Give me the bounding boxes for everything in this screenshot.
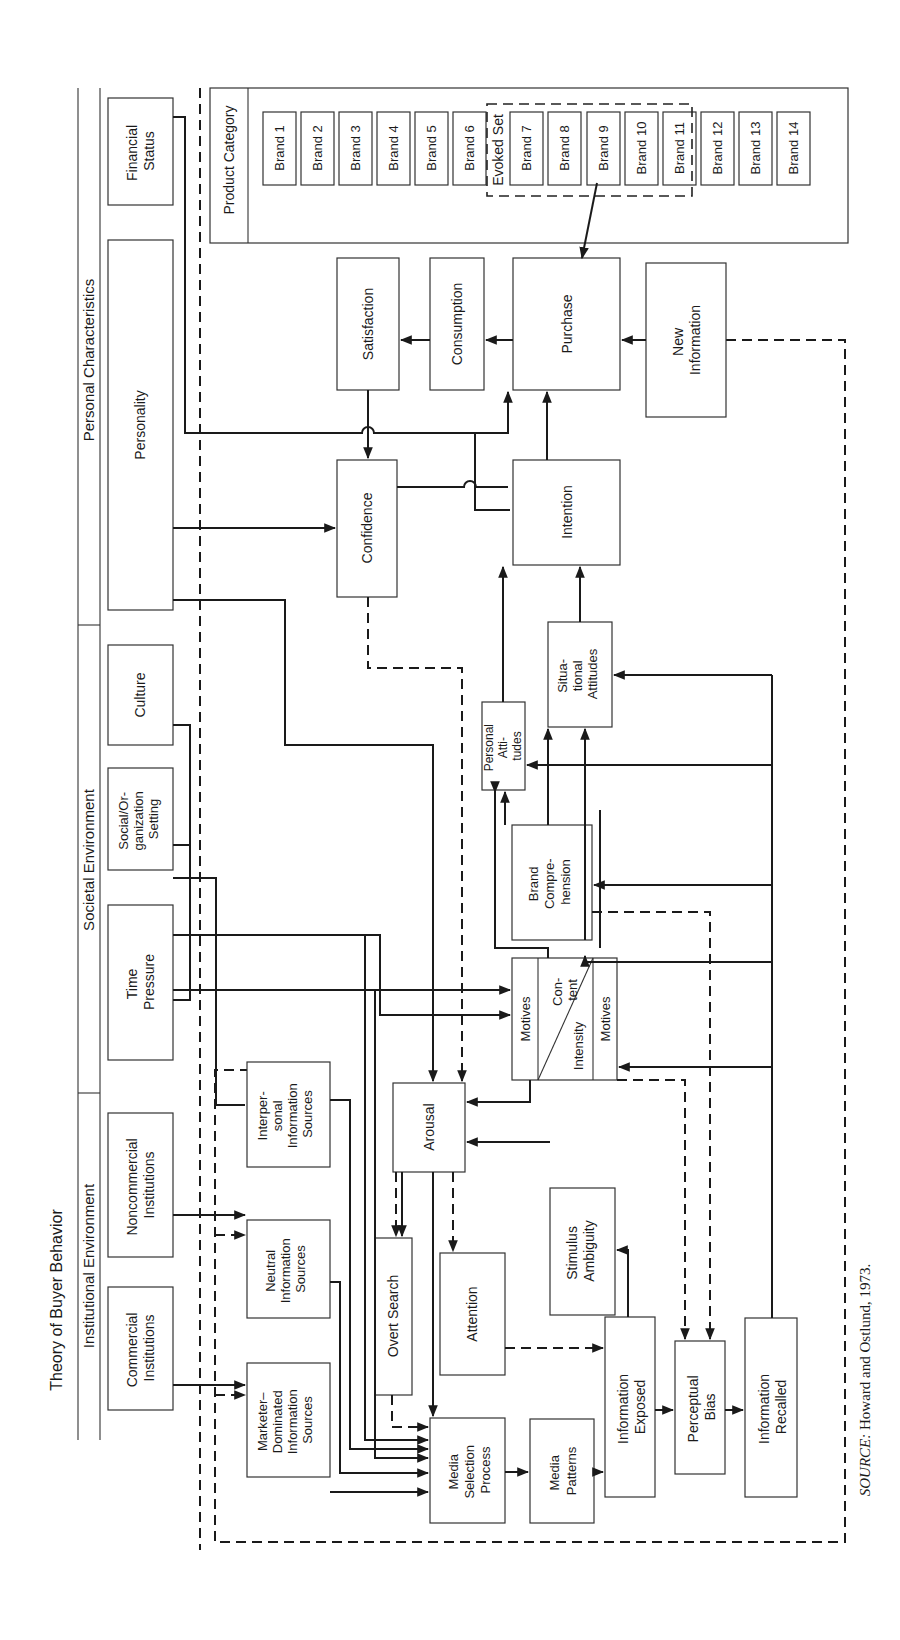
- situational-attitudes-box: Situa- tional Attitudes: [548, 622, 612, 727]
- svg-text:Intensity: Intensity: [571, 1021, 586, 1070]
- media-selection-box: Media Selection Process: [430, 1418, 505, 1523]
- culture-box: Culture: [108, 645, 173, 745]
- svg-text:Attention: Attention: [464, 1286, 480, 1341]
- svg-text:Brand 10: Brand 10: [634, 122, 649, 175]
- svg-text:Brand 4: Brand 4: [386, 125, 401, 171]
- brand-box: Brand 13: [739, 112, 772, 185]
- svg-text:Brand Compre- hens: Brand Compre- hension: [526, 855, 573, 909]
- noncommercial-institutions-box: Noncommercial Institutions: [108, 1113, 173, 1257]
- financial-status-box: Financial Status: [108, 98, 173, 205]
- svg-text:Brand 2: Brand 2: [310, 125, 325, 171]
- neutral-sources-box: Neutral Information Sources: [247, 1220, 330, 1318]
- svg-text:Product Category: Product Category: [221, 106, 237, 215]
- time-pressure-box: Time Pressure: [108, 905, 173, 1060]
- brand-box: Brand 4: [377, 112, 410, 185]
- intention-box: Intention: [513, 460, 620, 565]
- section-societal: Societal Environment: [80, 788, 97, 931]
- svg-text:Brand 14: Brand 14: [786, 122, 801, 175]
- media-patterns-box: Media Patterns: [530, 1419, 594, 1523]
- svg-text:Brand 12: Brand 12: [710, 122, 725, 175]
- svg-text:Motives: Motives: [598, 996, 613, 1041]
- svg-text:Consumption: Consumption: [449, 283, 465, 366]
- purchase-box: Purchase: [513, 258, 620, 390]
- brand-box: Brand 8: [548, 112, 581, 185]
- interpersonal-sources-box: Interper- sonal Information Sources: [247, 1062, 330, 1167]
- brand-box: Brand 12: [701, 112, 734, 185]
- svg-text:Arousal: Arousal: [421, 1103, 437, 1150]
- svg-text:Stimulus Ambiguity: Stimulus Ambiguity: [564, 1220, 597, 1281]
- svg-text:Personality: Personality: [132, 390, 148, 459]
- svg-text:Satisfaction: Satisfaction: [360, 288, 376, 360]
- svg-text:Brand 13: Brand 13: [748, 122, 763, 175]
- svg-text:Purchase: Purchase: [559, 294, 575, 353]
- social-org-setting-box: Social/Or- ganization Setting: [108, 768, 173, 870]
- satisfaction-box: Satisfaction: [337, 258, 399, 390]
- svg-text:Brand 3: Brand 3: [348, 125, 363, 171]
- marketer-sources-box: Marketer– Dominated Information Sources: [247, 1363, 330, 1477]
- svg-text:Brand 7: Brand 7: [519, 125, 534, 171]
- svg-text:Intention: Intention: [559, 485, 575, 539]
- attention-box: Attention: [440, 1253, 505, 1375]
- confidence-box: Confidence: [337, 460, 397, 597]
- consumption-box: Consumption: [430, 258, 484, 390]
- svg-text:Overt Search: Overt Search: [385, 1275, 401, 1357]
- svg-text:Brand 1: Brand 1: [272, 125, 287, 171]
- svg-text:Brand 11: Brand 11: [672, 122, 687, 174]
- brand-box: Brand 10: [625, 112, 658, 185]
- brand-box: Brand 2: [301, 112, 334, 185]
- svg-text:Commercial Institutions: Commercial Institutions: [124, 1309, 157, 1388]
- source-caption: SOURCE: Howard and Ostlund, 1973.: [857, 1264, 873, 1496]
- svg-text:Information Exposed: Information Exposed: [615, 1370, 648, 1444]
- brand-comprehension-box: Brand Compre- hension: [512, 825, 592, 940]
- brand-list: Brand 1Brand 2Brand 3Brand 4Brand 5Brand…: [263, 112, 810, 185]
- svg-text:Brand 9: Brand 9: [596, 125, 611, 171]
- buyer-behavior-diagram: Theory of Buyer Behavior Institutional E…: [0, 0, 900, 1640]
- brand-box: Brand 7: [510, 112, 543, 185]
- brand-box: Brand 3: [339, 112, 372, 185]
- brand-box: Brand 11: [663, 112, 696, 185]
- information-exposed-box: Information Exposed: [605, 1317, 655, 1497]
- overt-search-box: Overt Search: [375, 1238, 412, 1395]
- section-personal: Personal Characteristics: [80, 279, 97, 442]
- svg-text:Motives: Motives: [518, 996, 533, 1041]
- evoked-set-label: Evoked Set: [490, 114, 506, 186]
- brand-box: Brand 5: [415, 112, 448, 185]
- arousal-box: Arousal: [393, 1083, 465, 1172]
- svg-text:Information Recalled: Information Recalled: [756, 1370, 789, 1444]
- personality-box: Personality: [108, 240, 173, 610]
- new-information-box: New Information: [646, 263, 726, 417]
- brand-box: Brand 14: [777, 112, 810, 185]
- stimulus-ambiguity-box: Stimulus Ambiguity: [550, 1188, 615, 1315]
- svg-text:Brand 8: Brand 8: [557, 125, 572, 171]
- brand-box: Brand 6: [453, 112, 486, 185]
- svg-text:Brand 6: Brand 6: [462, 125, 477, 171]
- svg-text:Confidence: Confidence: [359, 492, 375, 563]
- section-institutional: Institutional Environment: [80, 1183, 97, 1348]
- personal-attitudes-box: Personal Atti- tudes: [482, 702, 525, 790]
- brand-box: Brand 9: [587, 112, 620, 185]
- perceptual-bias-box: Perceptual Bias: [675, 1341, 725, 1474]
- svg-text:Culture: Culture: [132, 672, 148, 717]
- diagram-title: Theory of Buyer Behavior: [48, 1209, 65, 1391]
- brand-box: Brand 1: [263, 112, 296, 185]
- commercial-institutions-box: Commercial Institutions: [108, 1287, 173, 1410]
- motives-box: Motives Con- tent Intensity Motives: [512, 958, 617, 1080]
- svg-text:Brand 5: Brand 5: [424, 125, 439, 171]
- information-recalled-box: Information Recalled: [745, 1318, 797, 1497]
